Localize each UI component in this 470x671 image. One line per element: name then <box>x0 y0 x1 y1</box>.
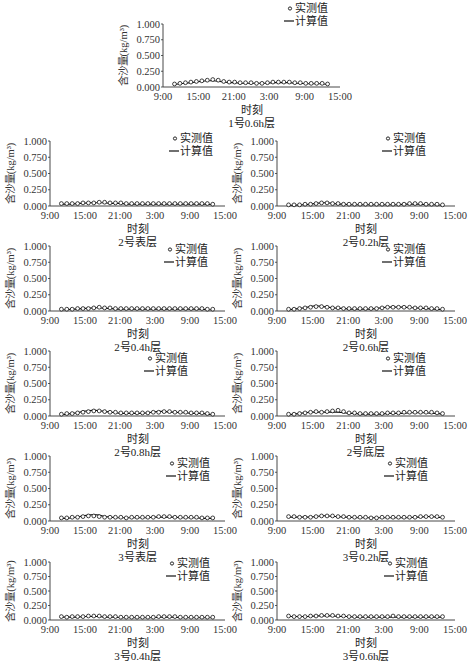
x-tick-label: 9:00 <box>268 420 287 431</box>
y-tick-label: 1.000 <box>136 19 160 30</box>
measured-point <box>391 614 395 618</box>
measured-point <box>97 515 101 519</box>
x-tick-label: 9:00 <box>41 624 60 635</box>
measured-point <box>397 411 401 415</box>
panel-caption: 3号0.2h层 <box>343 551 390 563</box>
measured-point <box>314 202 318 206</box>
measured-point <box>124 202 128 206</box>
measured-point <box>205 307 209 311</box>
x-tick-label: 9:00 <box>41 315 60 326</box>
measured-point <box>178 515 182 519</box>
measured-point <box>402 615 406 619</box>
measured-point <box>413 202 417 206</box>
legend-label-measured: 实测值 <box>295 1 328 14</box>
legend-marker-icon <box>170 562 173 565</box>
measured-point <box>298 412 302 416</box>
x-tick-label: 9:00 <box>181 420 200 431</box>
legend-label-computed: 计算值 <box>177 569 210 582</box>
x-tick-label: 15:00 <box>213 624 237 635</box>
measured-point <box>441 515 445 519</box>
y-tick-label: 0.500 <box>250 273 274 284</box>
measured-point <box>76 615 80 619</box>
measured-point <box>419 202 423 206</box>
measured-point <box>162 410 166 414</box>
y-tick-label: 0.500 <box>23 483 47 494</box>
x-axis-label: 时刻 <box>355 636 377 649</box>
measured-point <box>130 515 134 519</box>
measured-point <box>70 515 74 519</box>
measured-point <box>391 202 395 206</box>
legend: 实测值计算值 <box>144 351 188 377</box>
measured-point <box>353 515 357 519</box>
measured-point <box>435 202 439 206</box>
x-axis-label: 时刻 <box>127 222 149 235</box>
legend-label-measured: 实测值 <box>395 456 428 469</box>
measured-point <box>430 410 434 414</box>
measured-point <box>314 305 318 309</box>
panel-caption: 2号表层 <box>118 235 157 248</box>
legend-label-computed: 计算值 <box>395 569 428 582</box>
panel-caption: 2号0.2h层 <box>343 236 390 248</box>
y-tick-label: 1.000 <box>250 346 274 357</box>
panel-caption: 3号0.6h层 <box>343 650 390 662</box>
y-axis-label: 含沙量(kg/m³) <box>231 247 244 309</box>
measured-point <box>119 201 123 205</box>
chart-canvas: 1.0000.7500.5000.2500.0009:0015:0021:003… <box>0 0 470 671</box>
y-tick-label: 0.500 <box>250 168 274 179</box>
measured-point <box>178 81 182 85</box>
y-axis-label: 含沙量(kg/m³) <box>4 457 17 519</box>
measured-point <box>369 516 373 520</box>
measured-point <box>391 411 395 415</box>
measured-point <box>380 412 384 416</box>
x-tick-label: 15:00 <box>186 91 210 102</box>
measured-point <box>195 202 199 206</box>
measured-point <box>119 307 123 311</box>
legend-label-measured: 实测值 <box>393 351 426 364</box>
legend: 实测值计算值 <box>384 556 428 582</box>
y-tick-label: 0.500 <box>250 483 274 494</box>
y-axis-label: 含沙量(kg/m³) <box>4 560 17 622</box>
measured-point <box>441 203 445 207</box>
measured-point <box>364 515 368 519</box>
measured-point <box>424 306 428 310</box>
x-tick-label: 9:00 <box>410 624 429 635</box>
measured-point <box>320 81 324 85</box>
legend-label-computed: 计算值 <box>393 144 426 157</box>
measured-point <box>358 202 362 206</box>
legend-marker-icon <box>386 357 389 360</box>
measured-point <box>331 409 335 413</box>
chart-panel-11: 1.0000.7500.5000.2500.0009:0015:0021:003… <box>231 556 467 662</box>
y-tick-label: 0.750 <box>23 362 47 373</box>
measured-point <box>309 81 313 85</box>
measured-point <box>211 202 215 206</box>
measured-point <box>151 615 155 619</box>
measured-point <box>76 307 80 311</box>
x-tick-label: 3:00 <box>146 624 165 635</box>
measured-point <box>358 615 362 619</box>
measured-point <box>320 410 324 414</box>
measured-point <box>353 307 357 311</box>
y-tick-label: 0.750 <box>23 571 47 582</box>
measured-point <box>320 514 324 518</box>
measured-point <box>347 515 351 519</box>
measured-point <box>292 615 296 619</box>
measured-point <box>397 305 401 309</box>
measured-point <box>200 307 204 311</box>
legend: 实测值计算值 <box>166 556 210 582</box>
y-tick-label: 0.500 <box>250 378 274 389</box>
y-axis-label: 含沙量(kg/m³) <box>231 457 244 519</box>
measured-point <box>347 411 351 415</box>
measured-point <box>375 412 379 416</box>
measured-point <box>375 307 379 311</box>
x-tick-label: 3:00 <box>374 210 393 221</box>
measured-point <box>419 615 423 619</box>
measured-point <box>331 514 335 518</box>
chart-panel-1: 1.0000.7500.5000.2500.0009:0015:0021:003… <box>117 1 352 129</box>
measured-point <box>249 81 253 85</box>
measured-point <box>303 306 307 310</box>
y-tick-label: 0.500 <box>23 378 47 389</box>
measured-point <box>325 514 329 518</box>
measured-point <box>70 202 74 206</box>
panel-caption: 2号底层 <box>347 445 386 458</box>
measured-point <box>386 515 390 519</box>
